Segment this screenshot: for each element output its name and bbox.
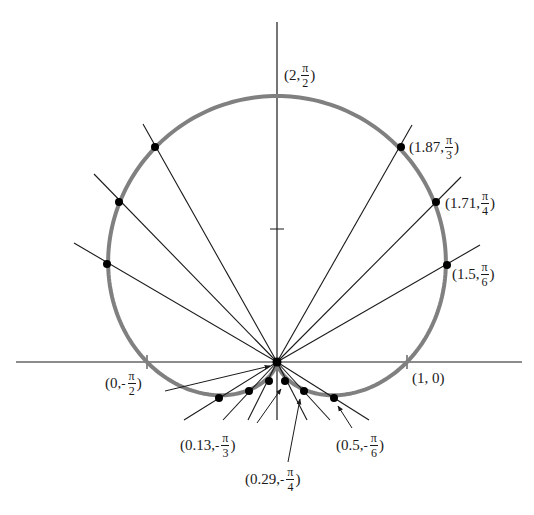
denominator: 6 bbox=[482, 275, 488, 288]
minus-sign: - bbox=[121, 377, 125, 390]
numerator: π bbox=[481, 261, 489, 275]
dot-neg-5pi-6 bbox=[215, 394, 223, 402]
dot-neg-3pi-4 bbox=[245, 387, 253, 395]
fraction: π4 bbox=[481, 190, 489, 217]
dot-neg-pi-3 bbox=[281, 377, 289, 385]
label-1.5-pi-6: (1.5, π6 ) bbox=[452, 261, 495, 288]
minus-sign: - bbox=[280, 473, 284, 486]
fraction: π3 bbox=[221, 432, 229, 459]
ray-5pi-6 bbox=[74, 243, 277, 362]
denominator: 2 bbox=[129, 384, 135, 397]
label-text: (1.5, bbox=[452, 267, 480, 282]
label-0.13-neg-pi-3: (0.13, - π3 ) bbox=[180, 432, 235, 459]
label-1.87-pi-3: (1.87, π3 ) bbox=[409, 134, 459, 161]
denominator: 3 bbox=[446, 148, 452, 161]
label-text: (1.87, bbox=[409, 140, 444, 155]
denominator: 2 bbox=[302, 76, 308, 89]
denominator: 4 bbox=[482, 204, 488, 217]
label-text: ) bbox=[454, 140, 459, 155]
numerator: π bbox=[286, 466, 294, 480]
dot-neg-pi-4 bbox=[300, 387, 308, 395]
label-0.5-neg-pi-6: (0.5, - π6 ) bbox=[336, 432, 384, 459]
cardioid-diagram bbox=[0, 0, 534, 515]
numerator: π bbox=[370, 432, 378, 446]
label-text: (0, bbox=[105, 376, 121, 391]
minus-sign: - bbox=[215, 439, 219, 452]
label-1.71-pi-4: (1.71, π4 ) bbox=[445, 190, 495, 217]
label-0-neg-pi-2: (0, - π2 ) bbox=[105, 370, 142, 397]
ray-pi-3 bbox=[277, 125, 412, 362]
denominator: 4 bbox=[287, 480, 293, 493]
dot-3pi-4 bbox=[115, 198, 123, 206]
label-text: (0.13, bbox=[180, 438, 215, 453]
numerator: π bbox=[445, 134, 453, 148]
label-text: ) bbox=[230, 438, 235, 453]
label-text: (1.71, bbox=[445, 196, 480, 211]
label-text: ) bbox=[490, 267, 495, 282]
numerator: π bbox=[221, 432, 229, 446]
label-text: (0.5, bbox=[336, 438, 364, 453]
label-1-0: (1, 0) bbox=[412, 371, 445, 386]
dot-pi-3 bbox=[397, 143, 405, 151]
arrow-neg-pi-4 bbox=[288, 399, 300, 462]
label-text: (2, bbox=[284, 68, 300, 83]
dot-neg-2pi-3 bbox=[265, 377, 273, 385]
label-0.29-neg-pi-4: (0.29, - π4 ) bbox=[245, 466, 300, 493]
label-2-pi-2: (2, π2 ) bbox=[284, 62, 315, 89]
arrow-neg-pi-6 bbox=[338, 406, 352, 428]
label-text: ) bbox=[310, 68, 315, 83]
fraction: π4 bbox=[286, 466, 294, 493]
label-text: ) bbox=[379, 438, 384, 453]
minus-sign: - bbox=[364, 439, 368, 452]
denominator: 6 bbox=[371, 446, 377, 459]
dot-5pi-6 bbox=[103, 260, 111, 268]
numerator: π bbox=[301, 62, 309, 76]
fraction: π2 bbox=[301, 62, 309, 89]
fraction: π2 bbox=[128, 370, 136, 397]
numerator: π bbox=[128, 370, 136, 384]
denominator: 3 bbox=[222, 446, 228, 459]
dot-neg-pi-6 bbox=[330, 394, 338, 402]
label-text: ) bbox=[490, 196, 495, 211]
numerator: π bbox=[481, 190, 489, 204]
label-text: ) bbox=[137, 376, 142, 391]
fraction: π6 bbox=[481, 261, 489, 288]
label-text: (1, 0) bbox=[412, 371, 445, 386]
label-text: ) bbox=[295, 472, 300, 487]
ray-2pi-3 bbox=[143, 124, 277, 362]
dot-2pi-3 bbox=[151, 143, 159, 151]
label-text: (0.29, bbox=[245, 472, 280, 487]
fraction: π6 bbox=[370, 432, 378, 459]
fraction: π3 bbox=[445, 134, 453, 161]
dot-pi-6 bbox=[443, 261, 451, 269]
dot-origin bbox=[273, 358, 282, 367]
dot-pi-4 bbox=[432, 198, 440, 206]
